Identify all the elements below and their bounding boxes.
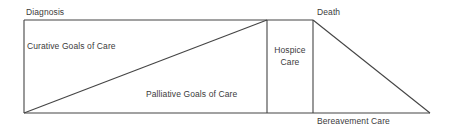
- curative-goals-label: Curative Goals of Care: [27, 41, 116, 52]
- hospice-care-label: Hospice Care: [267, 44, 313, 68]
- palliative-goals-label: Palliative Goals of Care: [146, 89, 237, 100]
- bereavement-hypotenuse-line: [313, 20, 430, 113]
- diagram-lines: [0, 0, 452, 135]
- care-continuum-diagram: Diagnosis Death Curative Goals of Care P…: [0, 0, 452, 135]
- hospice-care-label-line2: Care: [267, 56, 313, 68]
- death-label: Death: [317, 7, 340, 18]
- hospice-care-label-line1: Hospice: [267, 44, 313, 56]
- diagnosis-label: Diagnosis: [26, 7, 64, 18]
- bereavement-care-label: Bereavement Care: [317, 116, 390, 127]
